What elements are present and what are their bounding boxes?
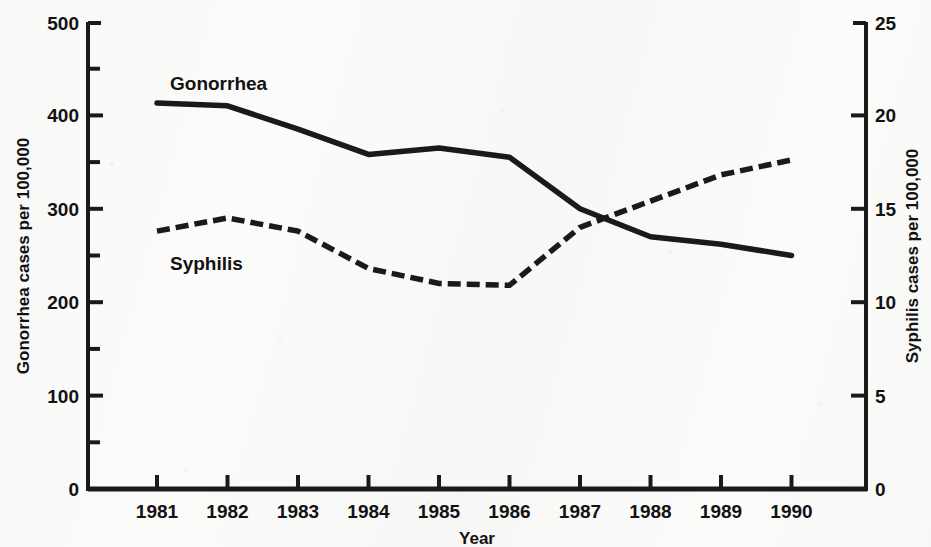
left-axis-title: Gonorrhea cases per 100,000 xyxy=(14,138,33,374)
left-tick-label-400: 400 xyxy=(47,105,79,126)
right-axis-title: Syphilis cases per 100,000 xyxy=(903,149,922,364)
right-tick-label-15: 15 xyxy=(875,199,897,220)
left-tick-label-0: 0 xyxy=(68,479,79,500)
x-tick-label-1988: 1988 xyxy=(629,501,671,522)
right-tick-label-25: 25 xyxy=(875,13,897,34)
right-axis-ticks xyxy=(851,115,866,489)
series-line-syphilis xyxy=(157,160,792,285)
x-tick-label-1982: 1982 xyxy=(206,501,248,522)
x-tick-label-1990: 1990 xyxy=(770,501,812,522)
right-tick-label-10: 10 xyxy=(875,292,896,313)
left-tick-label-300: 300 xyxy=(47,199,79,220)
right-axis-tick-labels: 0 5 10 15 20 25 xyxy=(875,13,897,500)
x-axis-tick-labels: 1981 1982 1983 1984 1985 1986 1987 1988 … xyxy=(136,501,813,522)
x-tick-label-1986: 1986 xyxy=(488,501,530,522)
left-tick-label-200: 200 xyxy=(47,292,79,313)
series-label-gonorrhea: Gonorrhea xyxy=(170,73,268,94)
x-tick-label-1989: 1989 xyxy=(700,501,742,522)
x-tick-label-1987: 1987 xyxy=(559,501,601,522)
x-tick-label-1981: 1981 xyxy=(136,501,179,522)
x-axis-title: Year xyxy=(459,529,495,547)
x-axis-ticks xyxy=(157,475,792,487)
left-axis-tick-labels: 0 100 200 300 400 500 xyxy=(47,13,79,500)
left-axis-ticks xyxy=(88,69,103,489)
chart-figure: 0 100 200 300 400 500 0 5 10 15 20 25 xyxy=(0,0,931,547)
left-tick-label-100: 100 xyxy=(47,386,79,407)
x-tick-label-1983: 1983 xyxy=(277,501,319,522)
series-label-syphilis: Syphilis xyxy=(170,253,243,274)
right-tick-label-5: 5 xyxy=(875,386,886,407)
left-tick-label-500: 500 xyxy=(47,13,79,34)
right-tick-label-20: 20 xyxy=(875,105,896,126)
x-tick-label-1985: 1985 xyxy=(418,501,461,522)
x-tick-label-1984: 1984 xyxy=(347,501,390,522)
right-tick-label-0: 0 xyxy=(875,479,886,500)
dual-axis-line-chart: 0 100 200 300 400 500 0 5 10 15 20 25 xyxy=(0,0,931,547)
series-line-gonorrhea xyxy=(157,103,792,256)
